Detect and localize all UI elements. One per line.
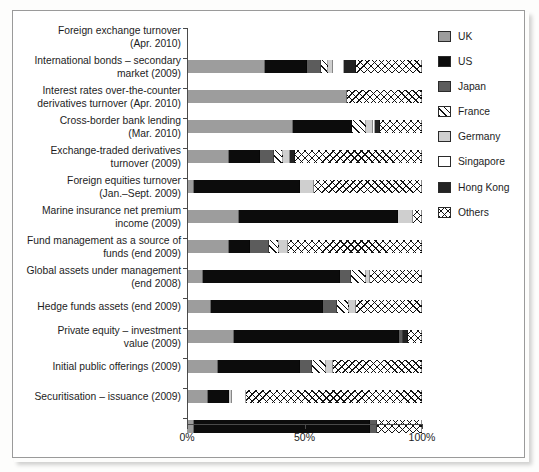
- bar-segment-uk: [187, 90, 347, 103]
- bar-segment-us: [211, 300, 324, 313]
- france-swatch-icon: [438, 106, 451, 117]
- bar-segment-uk: [187, 120, 293, 133]
- legend-item-fr: France: [438, 105, 510, 118]
- bar-row: [187, 90, 422, 103]
- bar-segment-jp: [250, 240, 269, 253]
- legend-label: France: [458, 106, 490, 117]
- germany-swatch-icon: [438, 131, 451, 142]
- bar-row: [187, 210, 422, 223]
- bar-segment-sg: [333, 60, 345, 73]
- bar-segment-fr: [321, 60, 328, 73]
- value-axis-tick: [305, 424, 306, 429]
- category-label: Cross-border bank lending(Mar. 2010): [18, 115, 181, 140]
- bar-segment-uk: [187, 210, 239, 223]
- category-label: Interest rates over-the-counterderivativ…: [18, 85, 181, 110]
- bar-segment-ot: [413, 210, 422, 223]
- legend-item-uk: UK: [438, 30, 510, 43]
- bar-segment-us: [194, 180, 300, 193]
- category-label: Marine insurance net premiumincome (2009…: [18, 205, 181, 230]
- bar-segment-fr: [352, 120, 366, 133]
- bar-segment-ot: [408, 330, 422, 343]
- legend-item-us: US: [438, 55, 510, 68]
- category-label: International bonds – secondarymarket (2…: [18, 55, 181, 80]
- category-label: Fund management as a source offunds (end…: [18, 235, 181, 260]
- bar-segment-de: [326, 360, 333, 373]
- bar-segment-us: [265, 60, 307, 73]
- category-axis-line: [187, 28, 188, 424]
- bar-segment-jp: [370, 420, 377, 433]
- bar-segment-ot: [314, 180, 422, 193]
- singapore-swatch-icon: [438, 156, 451, 167]
- bar-segment-uk: [187, 330, 234, 343]
- legend-label: Germany: [458, 131, 500, 142]
- uk-swatch-icon: [438, 31, 451, 42]
- bar-segment-ot: [295, 150, 422, 163]
- bar-segment-us: [229, 150, 260, 163]
- legend-label: Japan: [458, 81, 486, 92]
- bar-segment-fr: [269, 240, 278, 253]
- bar-segment-us: [194, 420, 370, 433]
- bar-segment-us: [208, 390, 229, 403]
- bar-segment-uk: [187, 240, 229, 253]
- bar-segment-ot: [347, 90, 422, 103]
- bar-segment-jp: [323, 300, 337, 313]
- bar-segment-hk: [344, 60, 356, 73]
- bar-segment-us: [218, 360, 300, 373]
- value-axis-label: 0%: [179, 431, 194, 443]
- others-swatch-icon: [438, 207, 451, 218]
- category-label: Initial public offerings (2009): [18, 361, 181, 373]
- value-axis-label: 100%: [409, 431, 436, 443]
- bar-row: [187, 240, 422, 253]
- bar-segment-de: [398, 210, 412, 223]
- bar-segment-us: [229, 240, 250, 253]
- value-axis-label: 50%: [294, 431, 315, 443]
- bar-segment-de: [349, 300, 356, 313]
- bar-segment-uk: [187, 300, 211, 313]
- category-label: Exchange-traded derivativesturnover (200…: [18, 145, 181, 170]
- bar-segment-us: [293, 120, 352, 133]
- bar-segment-ot: [356, 60, 422, 73]
- bar-segment-de: [366, 120, 373, 133]
- legend-label: Others: [458, 207, 489, 218]
- bar-row: [187, 180, 422, 193]
- bar-segment-ot: [246, 390, 422, 403]
- bar-row: [187, 390, 422, 403]
- bar-segment-uk: [187, 150, 229, 163]
- legend-item-jp: Japan: [438, 80, 510, 93]
- us-swatch-icon: [438, 56, 451, 67]
- category-label: Securitisation – issuance (2009): [18, 391, 181, 403]
- bar-row: [187, 300, 422, 313]
- bar-segment-uk: [187, 60, 265, 73]
- bar-segment-uk: [187, 270, 203, 283]
- chart-legend: UKUSJapanFranceGermanySingaporeHong Kong…: [438, 30, 510, 231]
- bar-segment-ot: [370, 270, 422, 283]
- bar-row: [187, 120, 422, 133]
- bar-segment-fr: [351, 270, 365, 283]
- bar-segment-ot: [380, 120, 422, 133]
- category-label: Foreign exchange turnover(Apr. 2010): [18, 25, 181, 50]
- chart-figure: Foreign exchange turnover(Apr. 2010)Inte…: [0, 0, 539, 472]
- legend-label: Hong Kong: [458, 182, 510, 193]
- bar-segment-ot: [333, 360, 422, 373]
- japan-swatch-icon: [438, 81, 451, 92]
- bar-segment-us: [234, 330, 399, 343]
- bar-row: [187, 330, 422, 343]
- bar-segment-sg: [232, 390, 246, 403]
- legend-item-de: Germany: [438, 130, 510, 143]
- bar-segment-jp: [307, 60, 321, 73]
- stacked-bars-group: [187, 28, 422, 424]
- legend-item-ot: Others: [438, 206, 510, 219]
- bar-row: [187, 270, 422, 283]
- bar-row: [187, 150, 422, 163]
- bar-segment-de: [283, 150, 290, 163]
- category-label: Global assets under management(end 2008): [18, 265, 181, 290]
- bar-segment-ot: [288, 240, 422, 253]
- value-axis-tick: [187, 424, 188, 429]
- bar-segment-de: [279, 240, 288, 253]
- bar-segment-fr: [312, 360, 326, 373]
- category-label: Private equity – investmentvalue (2009): [18, 325, 181, 350]
- bar-segment-jp: [300, 360, 312, 373]
- bar-segment-uk: [187, 180, 194, 193]
- bar-row: [187, 60, 422, 73]
- category-label: Foreign equities turnover(Jan.–Sept. 200…: [18, 175, 181, 200]
